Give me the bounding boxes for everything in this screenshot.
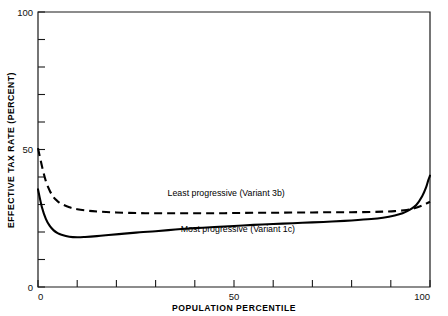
effective-tax-rate-line-chart: 050100 050100 Least progressive (Variant… — [0, 0, 448, 316]
annotation-least-progressive: Least progressive (Variant 3b) — [168, 188, 285, 198]
y-tick-label: 50 — [22, 144, 33, 155]
x-tick-label: 50 — [229, 291, 240, 302]
chart-container: 050100 050100 Least progressive (Variant… — [0, 0, 448, 316]
x-tick-label: 100 — [414, 291, 430, 302]
x-tick-label: 0 — [38, 291, 43, 302]
chart-background — [0, 0, 448, 316]
y-tick-label: 0 — [28, 282, 33, 293]
y-axis-title: EFFECTIVE TAX RATE (PERCENT) — [6, 72, 16, 228]
x-axis-title: POPULATION PERCENTILE — [172, 303, 296, 313]
annotation-most-progressive: Most progressive (Variant 1c) — [181, 224, 295, 234]
y-tick-label: 100 — [17, 7, 33, 18]
